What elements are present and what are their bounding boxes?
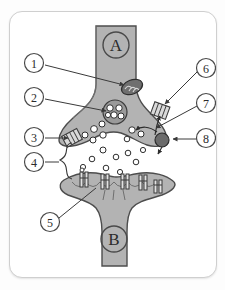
callout-6-label: 6 (203, 62, 209, 76)
callout-7-label: 7 (203, 97, 209, 111)
callout-2[interactable]: 2 (25, 88, 44, 107)
figure-canvas: A (0, 0, 225, 290)
vesicle-cluster-icon (103, 100, 127, 124)
reuptake-transporter-icon (155, 133, 169, 154)
callout-1-label: 1 (31, 57, 37, 71)
callout-3[interactable]: 3 (25, 128, 44, 147)
callout-8-label: 8 (203, 132, 209, 146)
presynaptic-letter: A (110, 36, 123, 55)
postsynaptic-letter: B (108, 230, 119, 249)
callout-8[interactable]: 8 (197, 129, 216, 148)
callout-5[interactable]: 5 (41, 213, 60, 232)
callout-5-label: 5 (47, 216, 53, 230)
neurotransmitter-dot (80, 147, 145, 175)
postsynaptic-neuron: B (60, 173, 175, 266)
callout-6[interactable]: 6 (197, 59, 216, 78)
callout-3-label: 3 (31, 131, 37, 145)
leader-6 (165, 72, 197, 104)
brace-icon (60, 143, 72, 179)
callout-7[interactable]: 7 (197, 94, 216, 113)
callout-4-label: 4 (31, 156, 37, 170)
callout-1[interactable]: 1 (25, 54, 44, 73)
synapse-diagram: A (10, 12, 216, 277)
callout-2-label: 2 (31, 91, 37, 105)
callout-4[interactable]: 4 (25, 153, 44, 172)
figure-card: A (9, 11, 217, 278)
